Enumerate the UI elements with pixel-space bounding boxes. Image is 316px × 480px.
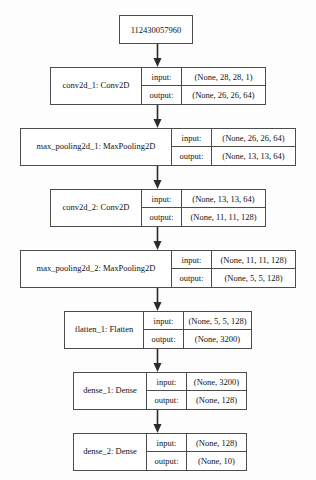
- io-row-input-conv2d-1: input: (None, 28, 28, 1): [142, 68, 265, 86]
- io-label-input: input:: [147, 373, 187, 390]
- io-label-input: input:: [147, 434, 187, 451]
- layer-name-max-pooling2d-2: max_pooling2d_2: MaxPooling2D: [21, 251, 171, 287]
- io-label-output: output:: [147, 452, 187, 470]
- layer-name-flatten-1: flatten_1: Flatten: [65, 312, 143, 348]
- io-table-dense-2: input: (None, 128) output: (None, 10): [146, 434, 246, 470]
- io-row-output-dense-2: output: (None, 10): [147, 452, 246, 470]
- io-table-flatten-1: input: (None, 5, 5, 128) output: (None, …: [143, 312, 251, 348]
- io-row-input-max-pooling2d-1: input: (None, 26, 26, 64): [172, 129, 295, 147]
- io-value-output-dense-1: (None, 128): [187, 391, 246, 409]
- io-label-input: input:: [142, 68, 182, 85]
- io-label-output: output:: [144, 330, 184, 348]
- io-table-conv2d-1: input: (None, 28, 28, 1) output: (None, …: [141, 68, 265, 104]
- io-row-input-dense-1: input: (None, 3200): [147, 373, 246, 391]
- arrow-conv2d-1-to-max-pooling2d-1: [152, 105, 163, 128]
- model-architecture-diagram: 112430057960 conv2d_1: Conv2D input: (No…: [0, 0, 316, 480]
- io-table-max-pooling2d-2: input: (None, 11, 11, 128) output: (None…: [171, 251, 295, 287]
- input-node[interactable]: 112430057960: [119, 15, 193, 44]
- io-row-output-conv2d-1: output: (None, 26, 26, 64): [142, 86, 265, 104]
- layer-node-dense-1[interactable]: dense_1: Dense input: (None, 3200) outpu…: [73, 372, 247, 410]
- io-label-input: input:: [142, 190, 182, 207]
- io-row-output-max-pooling2d-1: output: (None, 13, 13, 64): [172, 147, 295, 165]
- io-value-output-dense-2: (None, 10): [187, 452, 246, 470]
- io-value-input-dense-2: (None, 128): [187, 434, 246, 451]
- io-row-output-conv2d-2: output: (None, 11, 11, 128): [142, 208, 265, 226]
- io-label-output: output:: [147, 391, 187, 409]
- io-label-output: output:: [142, 208, 182, 226]
- layer-node-max-pooling2d-2[interactable]: max_pooling2d_2: MaxPooling2D input: (No…: [20, 250, 296, 288]
- io-value-output-max-pooling2d-1: (None, 13, 13, 64): [212, 147, 295, 165]
- io-row-input-max-pooling2d-2: input: (None, 11, 11, 128): [172, 251, 295, 269]
- io-value-output-conv2d-1: (None, 26, 26, 64): [182, 86, 265, 104]
- io-row-input-flatten-1: input: (None, 5, 5, 128): [144, 312, 251, 330]
- io-value-output-max-pooling2d-2: (None, 5, 5, 128): [212, 269, 295, 287]
- layer-name-max-pooling2d-1: max_pooling2d_1: MaxPooling2D: [21, 129, 171, 165]
- io-label-output: output:: [172, 269, 212, 287]
- layer-name-dense-1: dense_1: Dense: [74, 373, 146, 409]
- io-value-input-max-pooling2d-1: (None, 26, 26, 64): [212, 129, 295, 146]
- io-label-input: input:: [172, 251, 212, 268]
- io-label-input: input:: [144, 312, 184, 329]
- arrow-conv2d-2-to-max-pooling2d-2: [152, 227, 163, 250]
- io-table-max-pooling2d-1: input: (None, 26, 26, 64) output: (None,…: [171, 129, 295, 165]
- arrow-max-pooling2d-2-to-flatten-1: [152, 288, 163, 311]
- io-value-input-conv2d-2: (None, 13, 13, 64): [182, 190, 265, 207]
- io-value-input-conv2d-1: (None, 28, 28, 1): [182, 68, 265, 85]
- io-label-output: output:: [172, 147, 212, 165]
- io-row-output-flatten-1: output: (None, 3200): [144, 330, 251, 348]
- io-label-output: output:: [142, 86, 182, 104]
- io-value-output-flatten-1: (None, 3200): [184, 330, 251, 348]
- layer-node-max-pooling2d-1[interactable]: max_pooling2d_1: MaxPooling2D input: (No…: [20, 128, 296, 166]
- io-row-output-max-pooling2d-2: output: (None, 5, 5, 128): [172, 269, 295, 287]
- layer-name-conv2d-1: conv2d_1: Conv2D: [51, 68, 141, 104]
- layer-node-conv2d-1[interactable]: conv2d_1: Conv2D input: (None, 28, 28, 1…: [50, 67, 266, 105]
- io-value-input-max-pooling2d-2: (None, 11, 11, 128): [212, 251, 295, 268]
- layer-name-conv2d-2: conv2d_2: Conv2D: [51, 190, 141, 226]
- io-row-input-dense-2: input: (None, 128): [147, 434, 246, 452]
- arrow-dense-1-to-dense-2: [152, 410, 163, 433]
- arrow-flatten-1-to-dense-1: [152, 349, 163, 372]
- io-table-dense-1: input: (None, 3200) output: (None, 128): [146, 373, 246, 409]
- io-value-output-conv2d-2: (None, 11, 11, 128): [182, 208, 265, 226]
- io-value-input-dense-1: (None, 3200): [187, 373, 246, 390]
- layer-node-flatten-1[interactable]: flatten_1: Flatten input: (None, 5, 5, 1…: [64, 311, 252, 349]
- io-table-conv2d-2: input: (None, 13, 13, 64) output: (None,…: [141, 190, 265, 226]
- layer-name-dense-2: dense_2: Dense: [74, 434, 146, 470]
- layer-node-conv2d-2[interactable]: conv2d_2: Conv2D input: (None, 13, 13, 6…: [50, 189, 266, 227]
- arrow-max-pooling2d-1-to-conv2d-2: [152, 166, 163, 189]
- io-value-input-flatten-1: (None, 5, 5, 128): [184, 312, 251, 329]
- arrow-input-to-conv2d-1: [152, 44, 163, 67]
- io-label-input: input:: [172, 129, 212, 146]
- io-row-output-dense-1: output: (None, 128): [147, 391, 246, 409]
- io-row-input-conv2d-2: input: (None, 13, 13, 64): [142, 190, 265, 208]
- layer-node-dense-2[interactable]: dense_2: Dense input: (None, 128) output…: [73, 433, 247, 471]
